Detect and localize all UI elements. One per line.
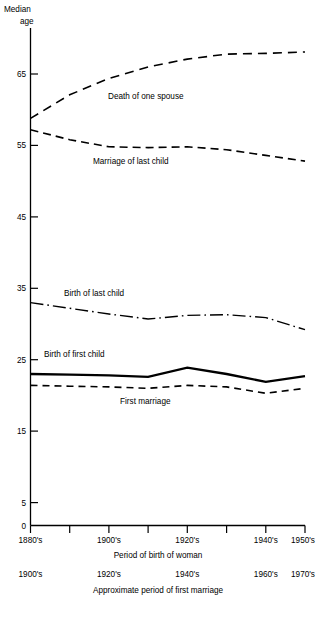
y-axis-ticks [31,74,39,503]
y-tick-label-35: 35 [17,284,27,293]
y-tick-label-55: 55 [17,141,27,150]
series-label-birth-of-first-child: Birth of first child [44,350,105,359]
x-tick-label-1920s: 1920's [175,536,199,545]
y-tick-label-45: 45 [17,213,27,222]
series-line-birth-of-last-child [31,303,306,330]
series-label-birth-of-last-child: Birth of last child [64,289,125,298]
x-tick-label-1940s: 1940's [254,536,278,545]
median-age-line-chart: Median age 65 55 45 35 25 15 5 0 [0,0,317,621]
x-axis-ticks [31,526,306,534]
x2-tick-label-1900s: 1900's [19,570,43,579]
series-label-first-marriage: First marriage [120,397,171,406]
series-line-death-of-one-spouse [31,52,306,118]
x-axis-title-secondary: Approximate period of first marriage [93,586,224,595]
x2-tick-label-1940s: 1940's [175,570,199,579]
x-axis-title-primary: Period of birth of woman [114,551,203,560]
x-tick-label-1880s: 1880's [19,536,43,545]
series-line-first-marriage [31,385,306,393]
series-label-marriage-of-last-child: Marriage of last child [93,157,169,166]
x2-tick-label-1970s: 1970's [291,570,315,579]
y-tick-label-25: 25 [17,356,27,365]
chart-svg: Median age 65 55 45 35 25 15 5 0 [0,0,317,621]
series-label-death-of-one-spouse: Death of one spouse [108,92,184,101]
series-line-birth-of-first-child [31,368,306,382]
y-tick-label-0: 0 [21,522,26,531]
x2-tick-label-1920s: 1920's [97,570,121,579]
x-tick-label-1950s: 1950's [291,536,315,545]
x2-tick-label-1960s: 1960's [254,570,278,579]
y-tick-label-65: 65 [17,70,27,79]
y-axis-title-line1: Median [4,5,31,14]
y-axis-title-line2: age [20,17,34,26]
y-tick-label-5: 5 [21,499,26,508]
y-tick-label-15: 15 [17,427,27,436]
x-tick-label-1900s: 1900's [97,536,121,545]
